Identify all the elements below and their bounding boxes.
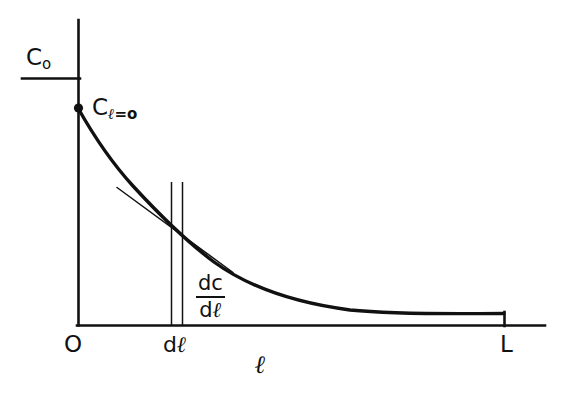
figure-canvas: Co Cℓ=o dc dℓ O dℓ L ℓ bbox=[0, 0, 568, 405]
dl-tick-script-l: ℓ bbox=[177, 331, 186, 357]
c-at-l-zero-equals-zero: =o bbox=[114, 105, 137, 123]
derivative-fraction-label: dc dℓ bbox=[196, 272, 225, 321]
c-zero-label: Co bbox=[26, 46, 52, 72]
dl-tick-d: d bbox=[163, 332, 177, 357]
c-zero-base: C bbox=[26, 44, 42, 70]
c-zero-subscript: o bbox=[42, 55, 52, 73]
x-tick-label-dl: dℓ bbox=[163, 333, 186, 356]
c-at-l-zero-label: Cℓ=o bbox=[92, 96, 137, 122]
x-axis-title: ℓ bbox=[255, 352, 266, 377]
derivative-denominator-d: d bbox=[199, 298, 212, 322]
surface-concentration-dot bbox=[74, 103, 83, 112]
paper-background bbox=[0, 0, 568, 405]
derivative-denominator: dℓ bbox=[196, 299, 225, 322]
x-tick-label-length-l: L bbox=[500, 333, 513, 356]
derivative-numerator: dc bbox=[196, 272, 225, 295]
x-tick-label-origin: O bbox=[64, 333, 82, 356]
plot-svg bbox=[0, 0, 568, 405]
derivative-denominator-script-l: ℓ bbox=[213, 297, 222, 322]
c-at-l-zero-base: C bbox=[92, 94, 108, 120]
